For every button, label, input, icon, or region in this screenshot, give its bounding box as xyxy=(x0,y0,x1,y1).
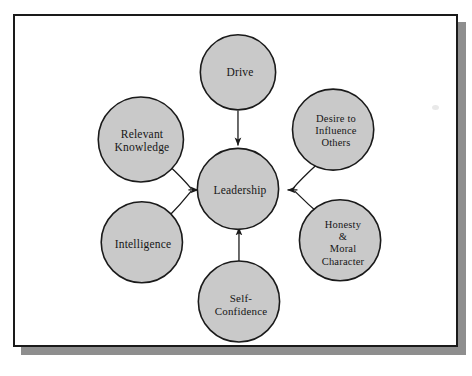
figure-root: Leadership Drive Desire to Influence Oth… xyxy=(0,0,472,376)
leadership-diagram xyxy=(15,16,456,345)
node-circle-drive[interactable] xyxy=(200,35,275,110)
node-circle-honesty-moral-character[interactable] xyxy=(299,200,380,281)
figure-frame: Leadership Drive Desire to Influence Oth… xyxy=(13,14,458,347)
node-circle-intelligence[interactable] xyxy=(101,202,182,283)
node-circle-leadership[interactable] xyxy=(197,148,278,229)
connector-intelligence-to-leadership xyxy=(169,191,192,217)
node-circle-relevant-knowledge[interactable] xyxy=(98,97,183,182)
scan-artifact-speck xyxy=(432,105,439,110)
node-circle-self-confidence[interactable] xyxy=(198,261,279,342)
circle-group xyxy=(98,35,380,342)
node-circle-desire-to-influence-others[interactable] xyxy=(292,89,373,170)
